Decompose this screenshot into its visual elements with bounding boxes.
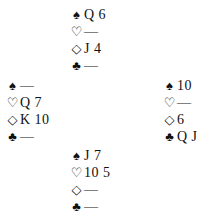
north-clubs: ♣ — bbox=[70, 57, 106, 74]
east-clubs: ♣ Q J bbox=[163, 128, 198, 145]
spade-icon: ♠ bbox=[163, 77, 176, 94]
heart-icon: ♡ bbox=[70, 23, 83, 40]
east-hearts-cards: — bbox=[177, 94, 192, 111]
north-spades-cards: Q 6 bbox=[84, 6, 106, 23]
north-hearts-cards: — bbox=[84, 23, 99, 40]
club-icon: ♣ bbox=[70, 57, 83, 74]
spade-icon: ♠ bbox=[70, 6, 83, 23]
south-diamonds: ◇ — bbox=[70, 181, 111, 198]
club-icon: ♣ bbox=[6, 128, 19, 145]
diamond-icon: ◇ bbox=[70, 181, 83, 198]
heart-icon: ♡ bbox=[163, 94, 176, 111]
west-diamonds-cards: K 10 bbox=[20, 111, 50, 128]
club-icon: ♣ bbox=[70, 198, 83, 215]
south-clubs-cards: — bbox=[84, 198, 99, 215]
club-icon: ♣ bbox=[163, 128, 176, 145]
heart-icon: ♡ bbox=[70, 164, 83, 181]
spade-icon: ♠ bbox=[70, 147, 83, 164]
south-clubs: ♣ — bbox=[70, 198, 111, 215]
north-spades: ♠ Q 6 bbox=[70, 6, 106, 23]
east-spades: ♠ 10 bbox=[163, 77, 198, 94]
spade-icon: ♠ bbox=[6, 77, 19, 94]
west-clubs: ♣ — bbox=[6, 128, 50, 145]
east-spades-cards: 10 bbox=[177, 77, 192, 94]
east-hearts: ♡ — bbox=[163, 94, 198, 111]
south-hand: ♠ J 7 ♡ 10 5 ◇ — ♣ — bbox=[70, 147, 111, 215]
south-diamonds-cards: — bbox=[84, 181, 99, 198]
south-hearts-cards: 10 5 bbox=[84, 164, 111, 181]
north-clubs-cards: — bbox=[84, 57, 99, 74]
west-diamonds: ◇ K 10 bbox=[6, 111, 50, 128]
south-hearts: ♡ 10 5 bbox=[70, 164, 111, 181]
north-diamonds: ◇ J 4 bbox=[70, 40, 106, 57]
north-hearts: ♡ — bbox=[70, 23, 106, 40]
west-spades: ♠ — bbox=[6, 77, 50, 94]
west-hearts: ♡ Q 7 bbox=[6, 94, 50, 111]
diamond-icon: ◇ bbox=[163, 111, 176, 128]
west-hand: ♠ — ♡ Q 7 ◇ K 10 ♣ — bbox=[6, 77, 50, 145]
east-clubs-cards: Q J bbox=[177, 128, 198, 145]
south-spades: ♠ J 7 bbox=[70, 147, 111, 164]
diamond-icon: ◇ bbox=[70, 40, 83, 57]
west-hearts-cards: Q 7 bbox=[20, 94, 42, 111]
south-spades-cards: J 7 bbox=[84, 147, 101, 164]
east-diamonds-cards: 6 bbox=[177, 111, 185, 128]
north-diamonds-cards: J 4 bbox=[84, 40, 101, 57]
north-hand: ♠ Q 6 ♡ — ◇ J 4 ♣ — bbox=[70, 6, 106, 74]
east-hand: ♠ 10 ♡ — ◇ 6 ♣ Q J bbox=[163, 77, 198, 145]
west-spades-cards: — bbox=[20, 77, 35, 94]
diamond-icon: ◇ bbox=[6, 111, 19, 128]
heart-icon: ♡ bbox=[6, 94, 19, 111]
east-diamonds: ◇ 6 bbox=[163, 111, 198, 128]
west-clubs-cards: — bbox=[20, 128, 35, 145]
